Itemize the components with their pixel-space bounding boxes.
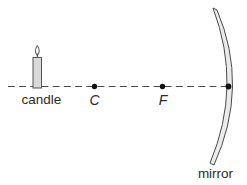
mirror-label: mirror	[198, 166, 234, 181]
center-of-curvature-dot	[92, 84, 97, 89]
optics-figure: candle C F mirror	[0, 0, 247, 185]
center-of-curvature-label: C	[89, 92, 100, 108]
focal-point-dot	[160, 84, 165, 89]
candle-label: candle	[22, 92, 62, 107]
mirror-vertex-dot	[226, 84, 232, 90]
focal-point-label: F	[159, 92, 169, 108]
candle-body	[33, 58, 42, 89]
candle	[33, 46, 42, 89]
optics-diagram: candle C F mirror	[0, 0, 247, 185]
